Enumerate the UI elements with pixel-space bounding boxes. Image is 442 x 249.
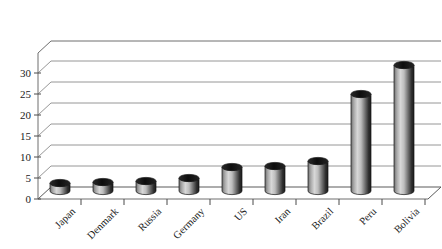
grid-depth-10 bbox=[38, 145, 51, 157]
grid-depth-25 bbox=[38, 82, 51, 94]
bar-top-iran bbox=[265, 162, 285, 169]
grid-depth-15 bbox=[38, 124, 51, 136]
grid-depth-30 bbox=[38, 61, 51, 73]
bar-top-peru bbox=[351, 90, 371, 97]
x-tick-label-germany: Germany bbox=[171, 205, 207, 241]
bar-us[interactable] bbox=[222, 163, 242, 194]
bar-top-bolivia bbox=[394, 61, 414, 68]
bar-brazil[interactable] bbox=[308, 157, 328, 194]
y-tick-label-10: 10 bbox=[20, 151, 32, 163]
chart-canvas: 0 5 10 15 20 25 30 bbox=[0, 0, 442, 249]
x-tick-label-us: US bbox=[232, 206, 249, 223]
y-tick-label-25: 25 bbox=[20, 88, 32, 100]
x-tick-label-peru: Peru bbox=[357, 205, 379, 227]
y-tick-label-5: 5 bbox=[26, 172, 32, 184]
x-tick-label-russia: Russia bbox=[136, 205, 164, 233]
bar-body-bolivia bbox=[394, 65, 414, 195]
y-tick-label-0: 0 bbox=[26, 193, 32, 205]
x-tick-label-denmark: Denmark bbox=[85, 205, 121, 241]
x-tick-label-brazil: Brazil bbox=[309, 206, 335, 232]
grid-depth-5 bbox=[38, 166, 51, 178]
floor-left-depth-edge bbox=[38, 187, 51, 199]
bar-top-japan bbox=[50, 179, 70, 186]
x-tick-label-iran: Iran bbox=[273, 205, 293, 225]
gridlines bbox=[38, 61, 441, 178]
bar-iran[interactable] bbox=[265, 162, 285, 194]
bar-body-brazil bbox=[308, 161, 328, 195]
x-axis-ticks bbox=[81, 199, 425, 205]
y-axis-labels: 0 5 10 15 20 25 30 bbox=[20, 67, 32, 205]
bar-denmark[interactable] bbox=[93, 178, 113, 194]
y-tick-label-20: 20 bbox=[20, 109, 32, 121]
bar-japan[interactable] bbox=[50, 179, 70, 194]
x-tick-label-bolivia: Bolivia bbox=[392, 205, 422, 235]
bar-top-denmark bbox=[93, 178, 113, 185]
bar-top-germany bbox=[179, 174, 199, 181]
bar-chart-figure: 0 5 10 15 20 25 30 bbox=[0, 0, 442, 249]
bar-top-us bbox=[222, 163, 242, 170]
bar-body-iran bbox=[265, 166, 285, 195]
depth-edge-top bbox=[38, 41, 51, 53]
x-axis-labels: Japan Denmark Russia Germany US Iran Bra… bbox=[53, 205, 422, 241]
bar-top-russia bbox=[136, 177, 156, 184]
grid-depth-20 bbox=[38, 103, 51, 115]
bar-body-us bbox=[222, 167, 242, 195]
bar-germany[interactable] bbox=[179, 174, 199, 194]
bar-russia[interactable] bbox=[136, 177, 156, 194]
bar-peru[interactable] bbox=[351, 90, 371, 194]
bar-body-peru bbox=[351, 94, 371, 195]
y-tick-label-30: 30 bbox=[20, 67, 32, 79]
floor-right-depth-edge bbox=[428, 187, 441, 199]
x-tick-label-japan: Japan bbox=[53, 205, 78, 230]
y-tick-label-15: 15 bbox=[20, 130, 32, 142]
bar-top-brazil bbox=[308, 157, 328, 164]
bar-bolivia[interactable] bbox=[394, 61, 414, 194]
